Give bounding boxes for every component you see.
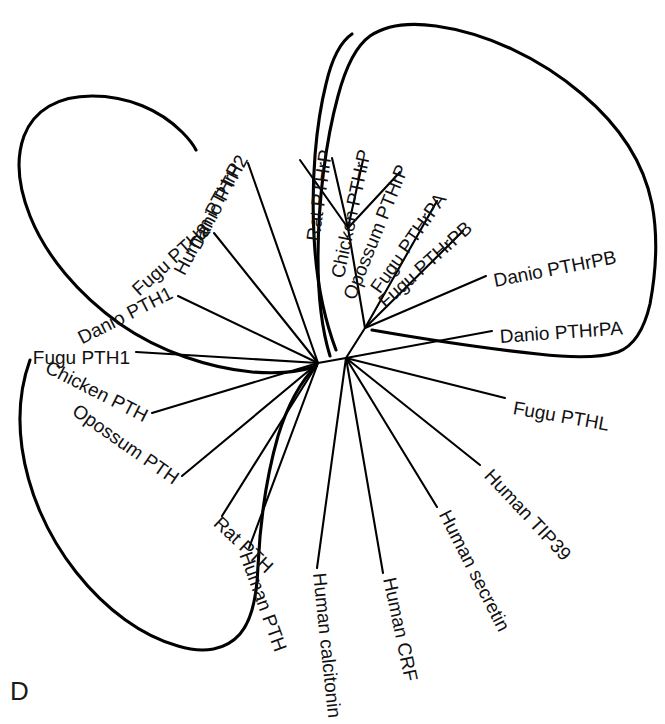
branch-fugu-pth2 [214,233,318,363]
branch-human-calcitonin [317,358,346,568]
tip-label-human-secretin: Human secretin [435,507,514,635]
pthrp-clade-outline [318,24,656,356]
tip-label-human-crf: Human CRF [379,576,421,684]
tip-label-human-calcitonin: Human calcitonin [309,572,345,719]
pth-clade-outline [19,96,316,373]
tip-label-fugu-pth1: Fugu PTH1 [33,347,130,368]
tip-label-fugu-pthl: Fugu PTHL [511,397,610,435]
branch-root-to-pthrp [346,328,365,358]
tip-label-human-tip39: Human TIP39 [480,465,575,565]
tip-label-rat-pthrp: Rat PTHrP [302,148,336,242]
tip-label-danio-pth1: Danio PTH1 [74,282,176,348]
tree-canvas: Human PTHrPRat PTHrPChicken PTHrPOpossum… [0,0,665,724]
branch-pth-to-root [318,358,346,363]
panel-letter: D [10,676,29,706]
branch-danio-pth2 [248,163,318,363]
tip-labels: Human PTHrPRat PTHrPChicken PTHrPOpossum… [33,148,624,719]
branch-fugu-pth1 [136,352,318,363]
tip-label-danio-pthrpb: Danio PTHrPB [492,246,618,290]
tip-label-danio-pthrpa: Danio PTHrPA [499,317,624,347]
phylogenetic-tree-figure: Human PTHrPRat PTHrPChicken PTHrPOpossum… [0,0,665,724]
